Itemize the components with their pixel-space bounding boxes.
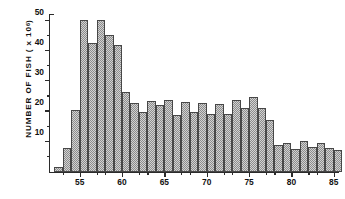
bar	[334, 150, 342, 172]
x-tick-label: 55	[75, 177, 84, 187]
bar	[283, 143, 291, 172]
x-tick-minor	[274, 172, 275, 175]
bar	[173, 115, 181, 172]
bar	[198, 103, 206, 172]
bar	[105, 35, 113, 172]
bar	[300, 141, 308, 172]
bar	[241, 108, 249, 172]
y-tick	[45, 110, 50, 111]
x-tick-minor	[139, 172, 140, 175]
x-tick-minor	[97, 172, 98, 175]
x-tick-minor	[105, 172, 106, 175]
bar	[181, 102, 189, 172]
bar	[190, 112, 198, 172]
bar	[258, 108, 266, 172]
bar	[266, 120, 274, 172]
bar	[232, 100, 240, 172]
y-axis-top-cap	[49, 14, 54, 15]
y-tick-label: 10	[35, 127, 44, 137]
y-tick	[45, 20, 50, 21]
bar	[71, 110, 79, 172]
y-axis-label: NUMBER OF FISH ( x 106 )	[20, 0, 36, 178]
bar	[147, 101, 155, 172]
x-tick-label: 65	[160, 177, 169, 187]
y-tick-minor	[47, 95, 50, 96]
bar	[274, 145, 282, 172]
y-axis-spine	[49, 14, 50, 173]
y-tick-label: 40	[35, 37, 44, 47]
x-tick-minor	[224, 172, 225, 175]
x-tick-label: 70	[202, 177, 211, 187]
bar	[80, 20, 88, 172]
x-tick-minor	[232, 172, 233, 175]
bar	[63, 148, 71, 172]
x-tick-minor	[266, 172, 267, 175]
bar	[114, 45, 122, 172]
bar	[139, 112, 147, 172]
bar	[88, 43, 96, 172]
bar	[130, 103, 138, 172]
bar	[54, 167, 62, 172]
x-tick-minor	[308, 172, 309, 175]
x-tick-minor	[190, 172, 191, 175]
y-tick-label: 20	[35, 97, 44, 107]
y-tick-minor	[47, 65, 50, 66]
y-axis-label-exponent: 6	[25, 23, 31, 26]
bar	[164, 100, 172, 172]
x-tick-label: 75	[244, 177, 253, 187]
bar	[291, 149, 299, 172]
x-tick-label: 85	[329, 177, 338, 187]
y-axis-label-text: NUMBER OF FISH ( x 10	[24, 26, 33, 138]
figure: NUMBER OF FISH ( x 106 ) 1020304050 5560…	[0, 0, 345, 199]
x-tick-label: 60	[117, 177, 126, 187]
bar	[317, 143, 325, 172]
x-tick-minor	[317, 172, 318, 175]
bar	[156, 105, 164, 172]
bar	[224, 114, 232, 172]
y-tick	[45, 141, 50, 142]
y-axis-label-suffix: )	[24, 19, 33, 23]
x-tick-minor	[147, 172, 148, 175]
x-tick-minor	[181, 172, 182, 175]
bar	[308, 147, 316, 172]
bar	[325, 148, 333, 172]
x-tick-minor	[63, 172, 64, 175]
y-tick	[45, 80, 50, 81]
bar	[97, 20, 105, 172]
y-tick-minor	[47, 126, 50, 127]
bar	[249, 97, 257, 172]
y-tick-label: 30	[35, 67, 44, 77]
plot-area: 1020304050 55606570758085	[50, 15, 338, 172]
x-tick-label: 80	[287, 177, 296, 187]
y-tick-label: 50	[35, 7, 44, 17]
y-tick	[45, 50, 50, 51]
y-tick-minor	[47, 35, 50, 36]
y-tick-minor	[47, 156, 50, 157]
bar	[207, 114, 215, 172]
bar	[215, 104, 223, 172]
bar	[122, 92, 130, 172]
